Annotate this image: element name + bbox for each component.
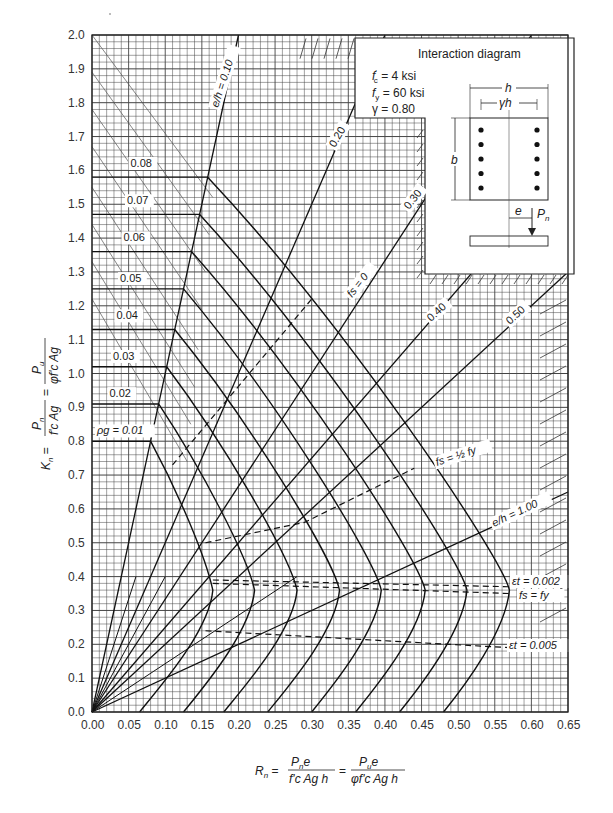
hatch-mark — [540, 322, 566, 336]
rebar-dot — [534, 171, 539, 176]
hatch-mark — [540, 432, 566, 446]
x-tick-label: 0.30 — [301, 718, 325, 732]
y-tick-label: 0.4 — [68, 570, 85, 584]
hatch-mark — [442, 275, 448, 284]
hatch-mark — [430, 275, 436, 284]
rho-label: 0.04 — [115, 309, 144, 322]
eh-label-020: 0.20 — [325, 120, 351, 151]
x-tick-label: 0.50 — [447, 718, 471, 732]
label-text: ρg = 0.01 — [96, 424, 143, 436]
label-text: 0.02 — [110, 387, 131, 399]
dim-b-label: b — [451, 153, 458, 167]
label-text: e/h = 1.00 — [490, 497, 540, 529]
param-fy: fy = 60 ksi — [372, 86, 424, 102]
param-fc: f′c = 4 ksi — [372, 68, 416, 85]
rho-curve — [92, 404, 255, 712]
rebar-dot — [478, 127, 483, 132]
rho-label: 0.02 — [108, 387, 137, 400]
y-label-den1: f'c Ag — [47, 405, 61, 435]
y-tick-label: 1.0 — [68, 367, 85, 381]
y-tick-label: 1.7 — [68, 130, 85, 144]
rebar-dot — [534, 142, 539, 147]
hatch-mark — [540, 476, 566, 490]
y-label-num1: Pn — [30, 417, 46, 430]
rebar-dot — [478, 142, 483, 147]
y-tick-label: 1.2 — [68, 299, 85, 313]
eh-label-030: 0.30 — [400, 183, 428, 214]
rebar-dot — [534, 156, 539, 161]
hatch-mark — [417, 158, 423, 166]
y-tick-label: 0.7 — [68, 468, 85, 482]
rebar-dot — [478, 185, 483, 190]
y-tick-label: 1.5 — [68, 197, 85, 211]
label-text: 0.04 — [117, 309, 138, 321]
x-tick-label: 0.20 — [227, 718, 251, 732]
equals: = — [339, 764, 346, 778]
x-axis-label: Rn =Pnef'c Ag h=Pueφf'c Ag h — [255, 755, 405, 786]
hatch-mark — [540, 300, 566, 314]
hatch-mark — [454, 275, 460, 284]
thin-diagonal-line — [92, 147, 202, 309]
param-gamma: γ = 0.80 — [372, 102, 415, 116]
label-text: 0.08 — [131, 157, 152, 169]
y-tick-label: 1.9 — [68, 62, 85, 76]
x-tick-label: 0.65 — [557, 718, 581, 732]
strain-line — [206, 468, 415, 542]
rho-label: 0.08 — [129, 157, 158, 170]
x-tick-label: 0.55 — [484, 718, 508, 732]
hatch-mark — [540, 344, 566, 358]
y-tick-label: 0.3 — [68, 603, 85, 617]
x-tick-label: 0.60 — [520, 718, 544, 732]
y-tick-label: 0.6 — [68, 502, 85, 516]
thin-diagonal-line — [92, 187, 198, 349]
rebar-dot — [478, 171, 483, 176]
y-tick-label: 1.4 — [68, 231, 85, 245]
y-tick-label: 0.5 — [68, 536, 85, 550]
y-tick-label: 1.8 — [68, 96, 85, 110]
hatch-mark — [514, 275, 520, 284]
dim-h-label: h — [505, 81, 512, 95]
fs-half-fy-label: fs = ½ fy — [432, 439, 493, 470]
x-label-num1: Pne — [291, 755, 310, 771]
label-text: 0.03 — [113, 350, 134, 362]
y-tick-label: 1.3 — [68, 265, 85, 279]
hatch-mark — [502, 275, 508, 284]
x-label-den2: φf'c Ag h — [351, 772, 398, 786]
x-tick-label: 0.15 — [191, 718, 215, 732]
stray-dot — [109, 13, 111, 15]
x-label-prefix: Rn = — [255, 764, 278, 780]
hatch-mark — [540, 410, 566, 424]
y-tick-label: 0.1 — [68, 671, 85, 685]
x-tick-label: 0.05 — [118, 718, 142, 732]
x-tick-label: 0.35 — [337, 718, 361, 732]
et-0002-label: εt = 0.002 — [510, 575, 576, 588]
x-tick-label: 0.00 — [81, 718, 105, 732]
hatch-mark — [540, 454, 566, 468]
x-tick-label: 0.45 — [411, 718, 435, 732]
y-tick-label: 0.8 — [68, 434, 85, 448]
dim-e-label: e — [515, 204, 522, 218]
y-label-den2: φf'c Ag — [47, 347, 61, 384]
hatch-mark — [540, 542, 566, 556]
inset-title: Interaction diagram — [418, 47, 521, 61]
interaction-diagram-chart: Interaction diagramf′c = 4 ksify = 60 ks… — [0, 0, 613, 813]
x-label-num2: Pue — [359, 755, 378, 771]
fs-fy-label: fs = fy — [517, 589, 564, 602]
y-tick-label: 0.2 — [68, 637, 85, 651]
hatch-mark — [550, 275, 556, 284]
label-text: 0.05 — [120, 272, 141, 284]
x-tick-label: 0.40 — [374, 718, 398, 732]
equals: = — [39, 389, 53, 396]
label-text: fs = fy — [519, 589, 550, 601]
y-axis-label: Kn =Pnf'c Ag=Puφf'c Ag — [30, 338, 61, 470]
rho-label: 0.05 — [118, 272, 147, 285]
label-text: 0.07 — [127, 194, 148, 206]
rebar-dot — [534, 185, 539, 190]
hatch-mark — [417, 144, 423, 152]
rebar-dot — [534, 127, 539, 132]
hatch-mark — [540, 520, 566, 534]
rho-label: 0.06 — [122, 231, 151, 244]
et-0005-label: εt = 0.005 — [507, 639, 573, 652]
hatch-mark — [417, 172, 423, 180]
hatch-mark — [417, 228, 423, 236]
